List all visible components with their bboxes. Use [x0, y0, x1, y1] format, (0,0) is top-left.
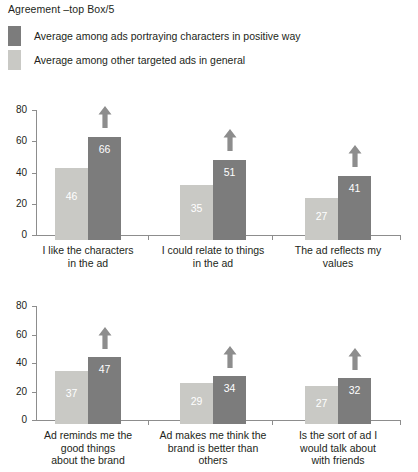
x-axis-separator [272, 420, 273, 425]
legend-item-general: Average among other targeted ads in gene… [8, 48, 408, 72]
bar-dark[interactable]: 47 [88, 357, 121, 424]
y-axis-line [36, 110, 37, 235]
plot-area-bottom: 020406080374729342732 [0, 296, 418, 424]
y-axis-tick-label: 40 [3, 357, 27, 368]
category-label-line: Is the sort of ad I [281, 429, 395, 442]
category-label: Ad reminds me thegood thingsabout the br… [31, 429, 145, 467]
category-label-line: about the brand [31, 454, 145, 467]
category-label-line: The ad reflects my [281, 244, 395, 257]
bar-light[interactable]: 29 [180, 383, 213, 424]
category-label-line: Ad reminds me the [31, 429, 145, 442]
x-axis-separator [272, 235, 273, 240]
bar-value-label: 37 [55, 387, 88, 399]
up-arrow-icon [223, 346, 237, 368]
bar-dark[interactable]: 34 [213, 376, 246, 424]
category-label: I could relate to thingsin the ad [156, 244, 270, 269]
y-axis-tick-label: 0 [3, 414, 27, 425]
x-axis-separator [400, 235, 401, 240]
bar-light[interactable]: 35 [180, 185, 213, 240]
bar-dark[interactable]: 51 [213, 160, 246, 240]
y-axis-line [36, 306, 37, 420]
category-label: I like the charactersin the ad [31, 244, 145, 269]
category-label-line: I could relate to things [156, 244, 270, 257]
up-arrow-icon [98, 327, 112, 349]
up-arrow-icon [98, 106, 112, 128]
up-arrow-icon [348, 145, 362, 167]
legend-label-positive: Average among ads portraying characters … [34, 30, 301, 42]
y-axis-tick-label: 80 [3, 104, 27, 115]
bar-dark[interactable]: 66 [88, 137, 121, 240]
category-label-line: with friends [281, 454, 395, 467]
y-axis-tick [32, 173, 36, 174]
bar-value-label: 34 [213, 382, 246, 394]
bar-value-label: 47 [88, 363, 121, 375]
bar-value-label: 27 [305, 210, 338, 222]
y-axis-tick [32, 306, 36, 307]
bar-value-label: 29 [180, 395, 213, 407]
y-axis-tick [32, 110, 36, 111]
category-label-line: values [281, 257, 395, 270]
y-axis-tick [32, 141, 36, 142]
x-axis-separator [400, 420, 401, 425]
up-arrow-icon [223, 129, 237, 151]
bar-light[interactable]: 37 [55, 371, 88, 424]
chart-panel-top: 020406080466635512741 I like the charact… [0, 100, 418, 280]
legend-item-positive: Average among ads portraying characters … [8, 24, 408, 48]
y-axis-tick-label: 20 [3, 386, 27, 397]
y-axis-tick-label: 60 [3, 135, 27, 146]
bar-value-label: 46 [55, 190, 88, 202]
bar-value-label: 51 [213, 166, 246, 178]
y-axis-tick [32, 392, 36, 393]
plot-area-top: 020406080466635512741 [0, 100, 418, 240]
bar-light[interactable]: 27 [305, 198, 338, 240]
category-label-line: in the ad [156, 257, 270, 270]
bar-dark[interactable]: 41 [338, 176, 371, 240]
y-axis-tick-label: 40 [3, 167, 27, 178]
category-label: Ad makes me think thebrand is better tha… [156, 429, 270, 467]
y-axis-tick [32, 204, 36, 205]
x-axis-separator [148, 420, 149, 425]
y-axis-tick-label: 0 [3, 229, 27, 240]
y-axis-tick-label: 80 [3, 300, 27, 311]
bar-value-label: 27 [305, 397, 338, 409]
category-label-line: in the ad [31, 257, 145, 270]
up-arrow-icon [348, 348, 362, 370]
category-label-line: good things [31, 442, 145, 455]
y-axis-tick [32, 235, 36, 236]
category-label-line: I like the characters [31, 244, 145, 257]
bar-light[interactable]: 46 [55, 168, 88, 240]
legend: Average among ads portraying characters … [8, 24, 408, 72]
x-axis-separator [148, 235, 149, 240]
y-axis-tick [32, 363, 36, 364]
bar-dark[interactable]: 32 [338, 378, 371, 424]
category-label: Is the sort of ad Iwould talk aboutwith … [281, 429, 395, 467]
legend-label-general: Average among other targeted ads in gene… [34, 54, 245, 66]
bar-value-label: 35 [180, 202, 213, 214]
chart-panel-bottom: 020406080374729342732 Ad reminds me theg… [0, 296, 418, 472]
legend-swatch-light-icon [8, 50, 21, 70]
bar-value-label: 66 [88, 143, 121, 155]
y-axis-tick [32, 335, 36, 336]
category-label-line: would talk about [281, 442, 395, 455]
bar-light[interactable]: 27 [305, 386, 338, 424]
y-axis-tick [32, 420, 36, 421]
legend-swatch-dark-icon [8, 26, 21, 46]
y-axis-tick-label: 60 [3, 329, 27, 340]
bar-value-label: 32 [338, 384, 371, 396]
y-axis-tick-label: 20 [3, 198, 27, 209]
category-label: The ad reflects myvalues [281, 244, 395, 269]
category-label-line: others [156, 454, 270, 467]
page-title: Agreement –top Box/5 [8, 3, 114, 15]
category-label-line: Ad makes me think the [156, 429, 270, 442]
category-label-line: brand is better than [156, 442, 270, 455]
bar-value-label: 41 [338, 182, 371, 194]
